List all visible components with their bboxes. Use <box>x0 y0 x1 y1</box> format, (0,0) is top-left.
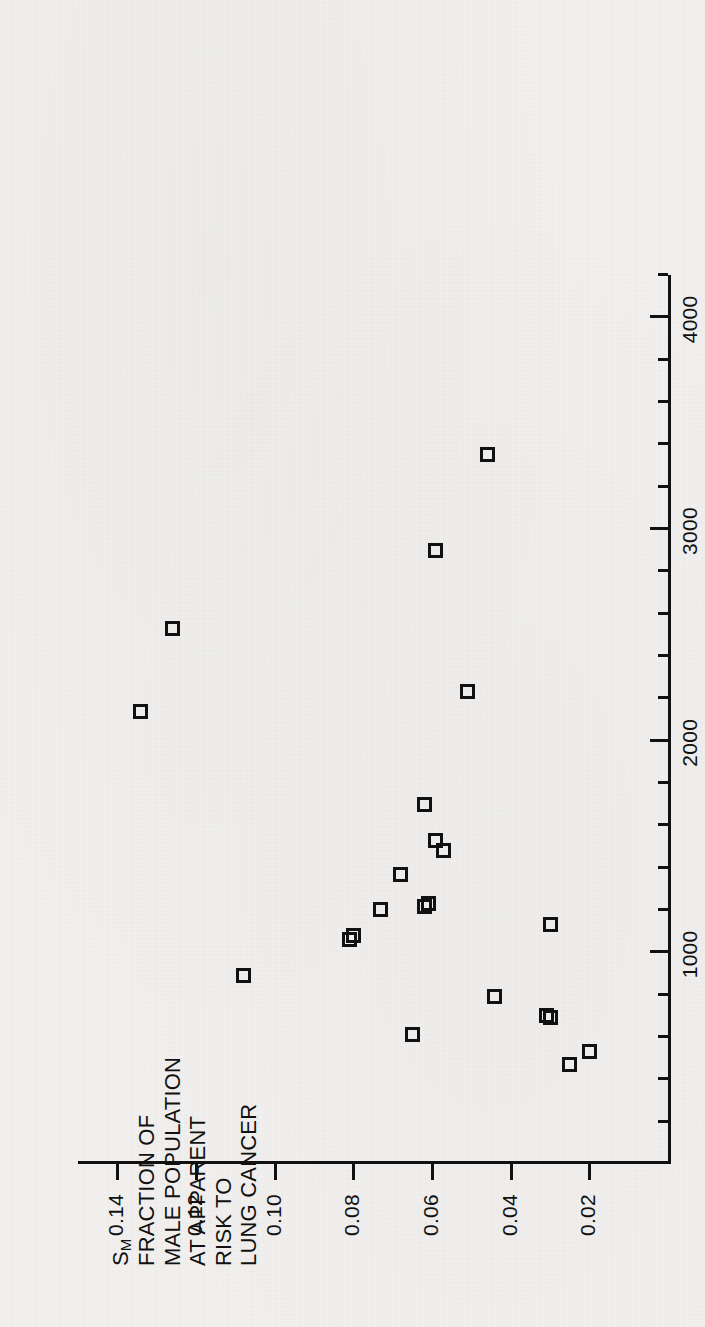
x-axis-minor-tick <box>658 611 668 614</box>
y-axis-title-line-2: MALE POPULATION <box>159 1056 185 1265</box>
x-axis-minor-tick <box>658 1035 668 1038</box>
y-axis-title-line-3: AT APPARENT <box>185 1056 211 1265</box>
x-axis-minor-tick <box>658 865 668 868</box>
y-axis-tick-label: 0.08 <box>340 1193 364 1235</box>
x-axis-tick-label: 1000 <box>678 930 702 978</box>
x-axis-minor-tick <box>658 569 668 572</box>
x-axis-minor-tick <box>658 696 668 699</box>
y-axis-major-tick <box>431 1164 434 1180</box>
y-axis-major-tick <box>352 1164 355 1180</box>
x-axis-minor-tick <box>658 442 668 445</box>
data-point-marker <box>235 968 250 983</box>
y-axis-symbol: SM <box>108 1056 134 1265</box>
y-axis-title-line-1: FRACTION OF <box>134 1056 160 1265</box>
data-point-marker <box>164 620 179 635</box>
rotated-figure-wrapper: 1000200030004000 0.020.040.060.080.100.1… <box>43 44 663 1284</box>
data-point-marker <box>416 899 431 914</box>
x-axis-minor-tick <box>658 781 668 784</box>
x-axis-minor-tick <box>658 823 668 826</box>
data-point-marker <box>404 1027 419 1042</box>
x-axis-tick-label: 3000 <box>678 507 702 555</box>
data-point-marker <box>416 796 431 811</box>
y-axis-tick-label: 0.02 <box>576 1193 600 1235</box>
data-point-marker <box>542 1010 557 1025</box>
data-point-marker <box>341 932 356 947</box>
y-axis-major-tick <box>588 1164 591 1180</box>
y-axis-tick-label: 0.04 <box>497 1193 521 1235</box>
data-point-marker <box>581 1044 596 1059</box>
data-point-marker <box>133 703 148 718</box>
x-axis-minor-tick <box>658 992 668 995</box>
x-axis-tick-label: 2000 <box>678 718 702 766</box>
x-axis-major-tick <box>650 950 668 953</box>
x-axis-major-tick <box>650 738 668 741</box>
data-point-marker <box>459 684 474 699</box>
y-axis-major-tick <box>273 1164 276 1180</box>
y-axis-title-line-4: RISK TO <box>210 1056 236 1265</box>
data-point-marker <box>562 1057 577 1072</box>
x-axis-minor-tick <box>658 654 668 657</box>
x-axis-minor-tick <box>658 273 668 276</box>
x-axis-tick-label: 4000 <box>678 295 702 343</box>
x-axis-major-tick <box>650 527 668 530</box>
y-axis-tick-label: 0.10 <box>261 1193 285 1235</box>
data-point-marker <box>487 989 502 1004</box>
y-axis-title-line-5: LUNG CANCER <box>236 1056 262 1265</box>
data-point-marker <box>373 902 388 917</box>
x-axis-minor-tick <box>658 1119 668 1122</box>
y-axis-major-tick <box>509 1164 512 1180</box>
data-point-marker <box>542 917 557 932</box>
x-axis-minor-tick <box>658 1077 668 1080</box>
data-point-marker <box>479 447 494 462</box>
x-axis-major-tick <box>650 315 668 318</box>
y-axis-tick-label: 0.06 <box>419 1193 443 1235</box>
x-axis-minor-tick <box>658 400 668 403</box>
data-point-marker <box>393 866 408 881</box>
scatter-plot-figure: 1000200030004000 0.020.040.060.080.100.1… <box>43 44 663 1284</box>
x-axis-minor-tick <box>658 484 668 487</box>
x-axis-minor-tick <box>658 357 668 360</box>
data-point-marker <box>428 542 443 557</box>
y-axis-title: SM FRACTION OF MALE POPULATION AT APPARE… <box>108 1056 262 1265</box>
data-point-marker <box>436 843 451 858</box>
x-axis-line <box>668 275 671 1164</box>
x-axis-minor-tick <box>658 908 668 911</box>
